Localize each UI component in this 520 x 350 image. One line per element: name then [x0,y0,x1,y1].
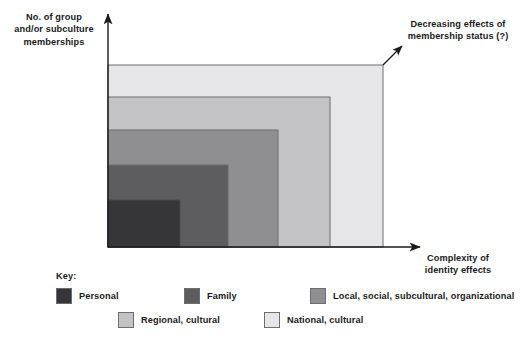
legend-item-national: National, cultural [264,312,363,328]
legend: Key: Personal Family Local, social, subc… [56,271,456,336]
legend-swatch-personal [56,288,72,304]
legend-title: Key: [56,271,456,281]
annotation-pointer-arrow [383,46,402,65]
y-axis-label: No. of group and/or subculture membershi… [4,11,104,48]
legend-swatch-local [310,288,326,304]
rect-personal [108,200,180,247]
legend-swatch-family [184,288,200,304]
nested-rectangles-group [108,65,383,247]
legend-item-family: Family [184,288,237,304]
legend-item-local: Local, social, subcultural, organization… [310,288,514,304]
legend-item-personal: Personal [56,288,119,304]
legend-swatch-national [264,312,280,328]
legend-swatch-regional [118,312,134,328]
legend-label-regional: Regional, cultural [141,315,220,325]
legend-label-national: National, cultural [287,315,363,325]
legend-label-local: Local, social, subcultural, organization… [333,291,514,301]
legend-row-1: Personal Family Local, social, subcultur… [56,288,456,312]
legend-label-family: Family [207,291,237,301]
identity-levels-diagram: No. of group and/or subculture membershi… [0,0,520,350]
annotation-decreasing-effects: Decreasing effects of membership status … [398,18,518,43]
legend-label-personal: Personal [79,291,119,301]
legend-item-regional: Regional, cultural [118,312,220,328]
legend-row-2: Regional, cultural National, cultural [56,312,456,336]
